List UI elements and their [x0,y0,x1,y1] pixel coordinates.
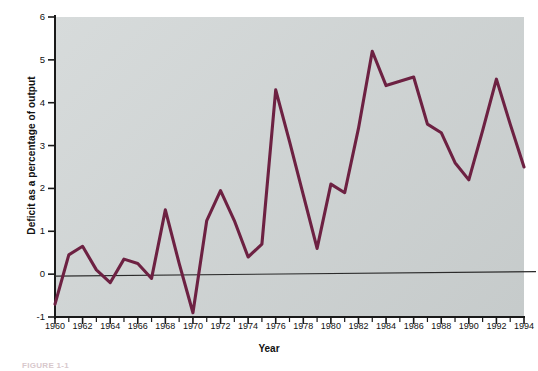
y-tick-label: 6 [19,12,45,22]
y-axis-title: Deficit as a percentage of output [26,61,37,251]
x-axis-title: Year [0,343,538,354]
zero-reference-line [55,272,536,277]
y-tick-label: 0 [19,269,45,279]
y-tick-marks [48,17,55,317]
chart-canvas [0,0,538,371]
figure-panel: 6543210-1 196019621964196619681970197219… [0,0,538,371]
x-tick-label: 1994 [504,321,538,331]
figure-caption: FIGURE 1-1 [22,361,69,370]
